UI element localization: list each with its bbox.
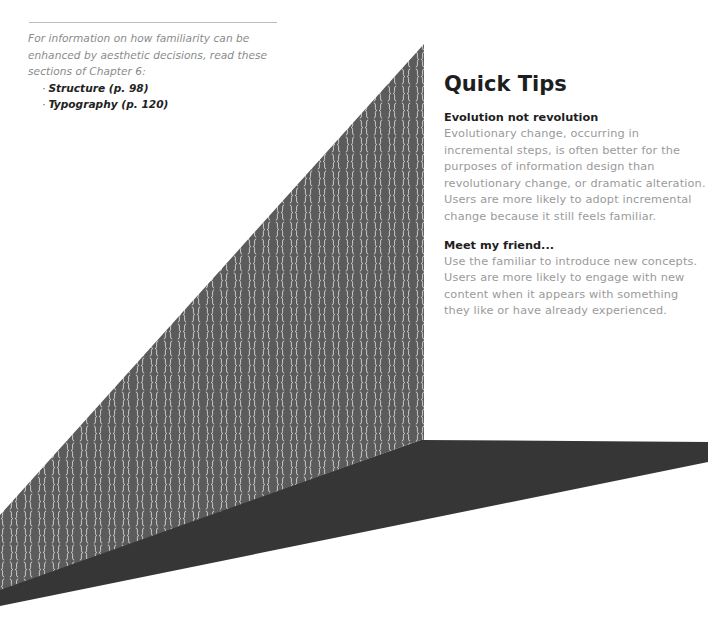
reference-item-structure: ·Structure (p. 98) (42, 80, 278, 96)
tip-body: Use the familiar to introduce new concep… (444, 254, 706, 320)
tip-heading: Meet my friend... (444, 238, 706, 254)
quick-tips-title: Quick Tips (444, 72, 706, 96)
tip-body: Evolutionary change, occurring in increm… (444, 126, 706, 226)
reference-item-label: Typography (p. 120) (48, 98, 168, 110)
reference-list: ·Structure (p. 98) ·Typography (p. 120) (28, 80, 278, 112)
quick-tips-panel: Quick Tips Evolution not revolution Evol… (444, 72, 706, 320)
divider-rule (29, 22, 277, 23)
bullet-icon: · (42, 82, 45, 94)
tip-meet-my-friend: Meet my friend... Use the familiar to in… (444, 238, 706, 320)
reference-intro-text: For information on how familiarity can b… (28, 30, 278, 80)
bullet-icon: · (42, 98, 45, 110)
reference-item-label: Structure (p. 98) (48, 82, 148, 94)
chapter-reference-note: For information on how familiarity can b… (28, 22, 278, 112)
tip-evolution: Evolution not revolution Evolutionary ch… (444, 110, 706, 226)
reference-item-typography: ·Typography (p. 120) (42, 96, 278, 112)
tip-heading: Evolution not revolution (444, 110, 706, 126)
